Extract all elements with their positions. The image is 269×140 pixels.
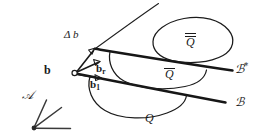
label-a-cal: 𝒜 <box>22 89 33 101</box>
label-b-text: b <box>44 63 51 77</box>
label-b-r-sub: r <box>102 67 105 76</box>
label-q-text: Q <box>145 111 154 125</box>
thin-upper-ray <box>96 4 159 49</box>
label-b-1: b1 <box>90 79 100 92</box>
label-b-star-base: ℬ <box>235 62 244 76</box>
label-q-double-bar: Q <box>186 36 195 48</box>
label-q-bar-text: Q <box>165 67 174 81</box>
label-b-star: ℬ* <box>235 62 248 75</box>
label-q: Q <box>145 112 154 124</box>
reference-frame-a <box>32 100 71 130</box>
diagram-svg <box>0 0 269 140</box>
region-q-arc <box>89 77 187 118</box>
label-b-cal: ℬ <box>235 96 244 108</box>
label-b-cal-text: ℬ <box>235 95 244 109</box>
frame-origin-dot <box>32 126 37 131</box>
label-b: b <box>44 64 51 76</box>
label-b-1-sub: 1 <box>96 83 100 92</box>
label-q-double-bar-text: Q <box>186 35 195 49</box>
figure-canvas: Δ b b br b1 ℬ* ℬ Q Q Q 𝒜 <box>0 0 269 140</box>
label-b-star-sup: * <box>244 61 248 71</box>
label-q-bar: Q <box>165 68 174 80</box>
label-b-r: br <box>96 63 105 76</box>
label-delta-b: Δ b <box>64 29 79 40</box>
vertex-marker-b <box>72 70 77 75</box>
vector-delta-b <box>76 48 95 73</box>
label-delta-b-text: Δ b <box>64 28 79 40</box>
label-a-cal-text: 𝒜 <box>22 88 33 102</box>
